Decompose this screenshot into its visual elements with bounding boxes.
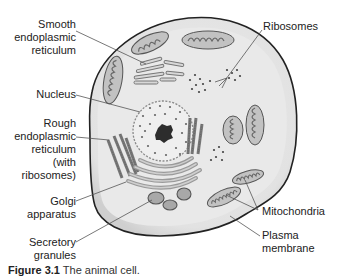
caption-text: The animal cell. <box>63 264 140 276</box>
label-golgi: Golgi apparatus <box>27 195 76 221</box>
figure-number: Figure 3.1 <box>8 264 60 276</box>
nucleus-shape <box>133 101 193 161</box>
label-smooth-er: Smooth endoplasmic reticulum <box>14 18 76 57</box>
label-nucleus: Nucleus <box>36 88 76 101</box>
figure-caption: Figure 3.1 The animal cell. <box>8 264 140 276</box>
label-secretory-granules: Secretory granules <box>29 236 76 262</box>
label-ribosomes: Ribosomes <box>263 20 318 33</box>
label-rough-er: Rough endoplasmic reticulum (with riboso… <box>14 117 76 182</box>
label-plasma-membrane: Plasma membrane <box>262 229 315 255</box>
label-mitochondria: Mitochondria <box>262 205 325 218</box>
